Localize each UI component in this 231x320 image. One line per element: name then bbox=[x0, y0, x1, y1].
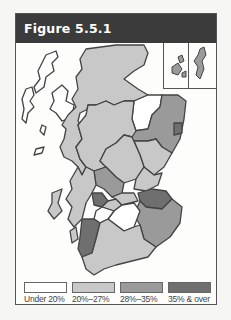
legend-label: 35% & over bbox=[168, 294, 212, 304]
figure-title: Figure 5.5.1 bbox=[16, 14, 216, 43]
legend-swatch bbox=[168, 282, 211, 293]
legend-label: 20%–27% bbox=[72, 294, 116, 304]
legend-item-20-27: 20%–27% bbox=[72, 282, 116, 304]
figure-card: Figure 5.5.1 bbox=[15, 13, 217, 305]
region-shetland bbox=[194, 47, 206, 79]
legend-item-under-20: Under 20% bbox=[24, 282, 68, 304]
legend-label: 28%–35% bbox=[120, 294, 164, 304]
legend-swatch bbox=[120, 282, 163, 293]
inset-northern-isles bbox=[163, 43, 216, 89]
inset-map bbox=[164, 43, 217, 89]
legend-item-28-35: 28%–35% bbox=[120, 282, 164, 304]
region-argyll bbox=[66, 167, 96, 227]
legend-label: Under 20% bbox=[24, 294, 68, 304]
region-orkney bbox=[172, 63, 182, 75]
region-western-isles bbox=[34, 51, 58, 93]
legend-swatch bbox=[24, 282, 67, 293]
region-aberdeen bbox=[174, 123, 182, 135]
legend-item-35-over: 35% & over bbox=[168, 282, 212, 304]
legend-swatch bbox=[72, 282, 115, 293]
legend: Under 20% 20%–27% 28%–35% 35% & over bbox=[24, 282, 212, 302]
